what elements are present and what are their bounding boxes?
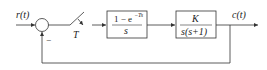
zoh-numerator-exp: −Ts <box>134 12 144 18</box>
block-diagram: r(t) − T 1 − e −Ts s K s(s+1) c(t) <box>0 0 267 70</box>
zoh-denominator: s <box>124 25 128 36</box>
input-label: r(t) <box>16 9 30 21</box>
feedback-sign: − <box>46 35 51 45</box>
zoh-numerator: 1 − e <box>114 14 132 24</box>
plant-numerator: K <box>191 13 200 24</box>
output-label: c(t) <box>232 9 247 21</box>
sampler-label: T <box>73 29 80 40</box>
plant-denominator: s(s+1) <box>181 26 208 38</box>
sampler-arrow <box>78 19 83 25</box>
summing-junction <box>36 19 49 32</box>
sampler-switch <box>70 12 84 25</box>
